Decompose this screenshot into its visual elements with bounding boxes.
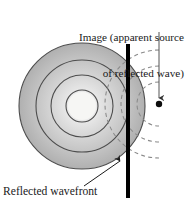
image-caption-line2: of reflected wave) [0,67,184,79]
image-caption-line1: Image (apparent source [0,31,184,43]
reflected-wavefront-caption: Reflected wavefront [3,186,97,198]
reflection-wavefront-diagram: Image (apparent source of reflected wave… [0,0,187,205]
image-caption: Image (apparent source of reflected wave… [0,7,187,103]
